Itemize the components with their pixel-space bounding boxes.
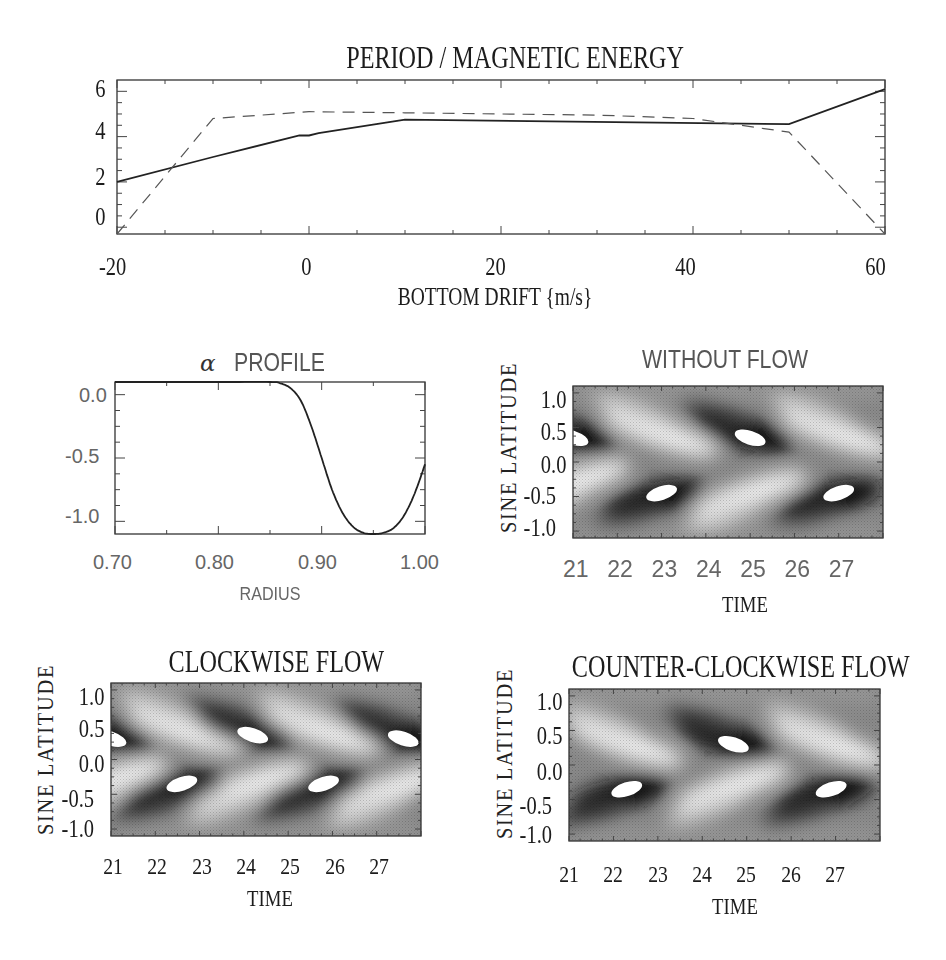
ytick-label: 1.0 (537, 688, 563, 716)
xtick-label: 25 (740, 556, 766, 583)
xtick-label: 0.70 (93, 551, 132, 574)
ytick-label: 0 (95, 203, 105, 231)
alpha-symbol: α (200, 350, 216, 376)
alpha-title-text: PROFILE (234, 348, 325, 377)
ytick-label: 0.0 (79, 384, 107, 407)
xtick-label: 1.00 (400, 551, 439, 574)
xtick-label: 22 (603, 861, 623, 888)
ytick-label: 0.0 (537, 758, 563, 786)
ytick-label: 0.0 (541, 451, 567, 479)
ytick-label: 1.0 (541, 386, 567, 414)
ytick-label: -1.0 (524, 514, 556, 542)
top-plot-title: PERIOD / MAGNETIC ENERGY (346, 40, 674, 76)
xtick-label: 25 (280, 853, 300, 880)
plot-frame (115, 382, 425, 534)
ytick-label: -0.5 (520, 792, 552, 820)
xtick-label: 27 (369, 853, 389, 880)
xtick-label: -20 (99, 253, 126, 281)
xtick-label: 21 (103, 853, 123, 880)
xtick-label: 0 (301, 253, 311, 281)
ytick-label: 2 (95, 163, 105, 191)
clockwise-heatmap (111, 683, 421, 836)
xtick-label: 24 (696, 556, 722, 583)
counter-clockwise-heatmap (569, 689, 880, 841)
alpha-xlabel: RADIUS (211, 583, 330, 605)
xtick-label: 23 (192, 853, 212, 880)
ytick-label: -1.0 (65, 505, 99, 528)
xtick-label: 22 (147, 853, 167, 880)
alpha-plot-area (115, 382, 425, 534)
ytick-label: 0.0 (79, 750, 105, 778)
clockwise-ylabel: SINE LATITUDE (32, 656, 59, 843)
xtick-label: 24 (692, 861, 712, 888)
xtick-label: 23 (652, 556, 678, 583)
xtick-label: 23 (648, 861, 668, 888)
ytick-label: -0.5 (62, 785, 94, 813)
ytick-label: -1.0 (62, 815, 94, 843)
ytick-label: -0.5 (524, 482, 556, 510)
ytick-label: 6 (95, 75, 105, 103)
xtick-label: 27 (829, 556, 855, 583)
ytick-label: 0.5 (541, 418, 567, 446)
without-flow-heatmap (573, 386, 883, 538)
without-flow-ylabel: SINE LATITUDE (495, 354, 522, 541)
xtick-label: 60 (865, 253, 886, 281)
xtick-label: 21 (563, 556, 589, 583)
alpha-plot-title: α PROFILE (200, 348, 370, 377)
xtick-label: 22 (607, 556, 633, 583)
ytick-label: -1.0 (520, 821, 552, 849)
series-line-1 (117, 112, 885, 234)
counter-clockwise-title: COUNTER-CLOCKWISE FLOW (572, 649, 868, 685)
ytick-label: -0.5 (65, 445, 99, 468)
xtick-label: 26 (785, 556, 811, 583)
ytick-label: 0.5 (537, 722, 563, 750)
xtick-label: 20 (485, 253, 506, 281)
ytick-label: 0.5 (79, 715, 105, 743)
xtick-label: 27 (825, 861, 845, 888)
ytick-label: 4 (95, 117, 105, 145)
series-line-0 (117, 89, 885, 182)
xtick-label: 25 (736, 861, 756, 888)
ytick-label: 1.0 (79, 683, 105, 711)
series-line-0 (115, 382, 425, 534)
counter-clockwise-xlabel: TIME (708, 893, 763, 920)
without-flow-xlabel: TIME (718, 591, 773, 618)
xtick-label: 26 (781, 861, 801, 888)
top-plot-xlabel: BOTTOM DRIFT {m/s} (359, 283, 632, 311)
xtick-label: 21 (559, 861, 579, 888)
clockwise-xlabel: TIME (243, 885, 298, 912)
xtick-label: 0.80 (195, 551, 234, 574)
counter-clockwise-ylabel: SINE LATITUDE (491, 660, 518, 847)
xtick-label: 24 (236, 853, 256, 880)
xtick-label: 0.90 (298, 551, 337, 574)
plot-frame (117, 80, 885, 234)
top-plot-area (117, 80, 885, 234)
xtick-label: 40 (675, 253, 696, 281)
without-flow-title: WITHOUT FLOW (627, 345, 823, 374)
clockwise-title: CLOCKWISE FLOW (169, 644, 372, 680)
xtick-label: 26 (325, 853, 345, 880)
